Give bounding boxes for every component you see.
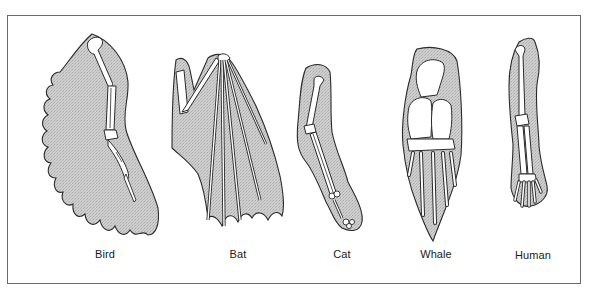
limb-label-bird: Bird [65,248,145,260]
limb-label-cat: Cat [302,248,382,260]
cat-foreleg-icon [292,62,362,237]
bird-wing-icon [30,30,160,245]
limb-label-bat: Bat [198,248,278,260]
limb-label-human: Human [493,249,573,261]
whale-flipper-icon [395,45,475,245]
limb-label-whale: Whale [396,248,476,260]
human-arm-icon [505,36,555,211]
bat-wing-icon [168,50,288,235]
